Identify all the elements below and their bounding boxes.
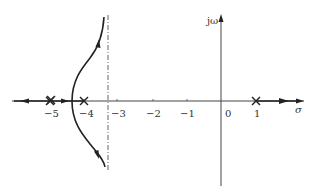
tick-label-minus-1: −1 [180, 108, 195, 119]
locus-arrow-right-icon [279, 98, 289, 104]
tick-label-0: 0 [225, 108, 231, 119]
tick-label-1: 1 [254, 108, 260, 119]
imaginary-axis [219, 14, 224, 186]
imag-axis-arrow-icon [219, 14, 224, 22]
tick-label-minus-5: −5 [44, 108, 59, 119]
tick-label-minus-4: −4 [79, 108, 94, 119]
real-axis-arrow-icon [296, 99, 304, 104]
jomega-axis-label: jω [206, 15, 218, 26]
locus-arrow-left-icon [20, 99, 29, 104]
tick-label-minus-3: −3 [111, 108, 126, 119]
sigma-axis-label: σ [295, 104, 303, 115]
tick-label-minus-2: −2 [146, 108, 161, 119]
locus-upper-branch [72, 17, 104, 101]
root-locus-diagram: −5 −4 −3 −2 −1 0 1 σ jω [0, 0, 309, 190]
locus-lower-arrow-icon [94, 150, 99, 159]
locus-arrow-mid-icon [61, 99, 69, 104]
